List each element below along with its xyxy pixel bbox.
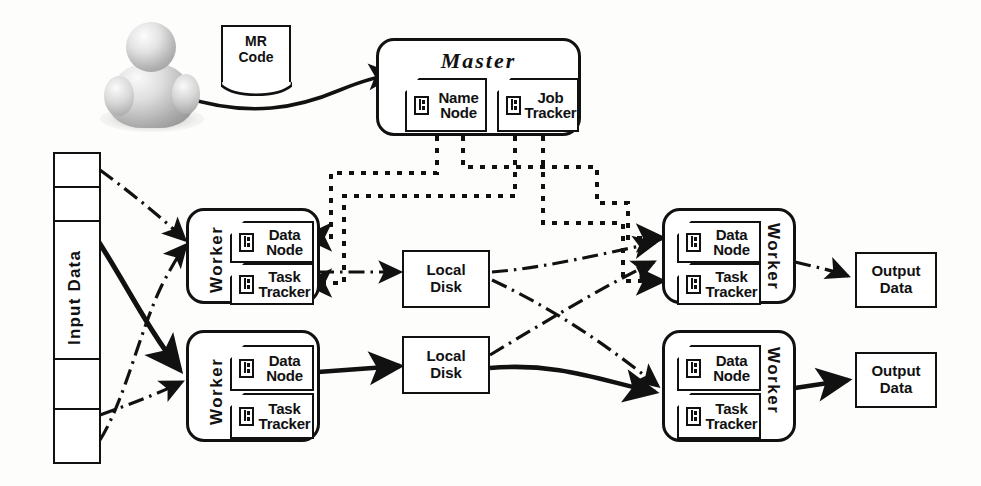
diagram-canvas: MR Code Master Name Node Job Tracke [0,0,981,486]
task-tracker-label: Task Tracker [257,269,312,300]
person-icon [96,18,208,130]
input-segment [55,360,99,410]
data-node-label: Data Node [257,353,312,384]
data-node-component[interactable]: Data Node [677,345,761,391]
edge-input-to-worker-tl [100,170,185,240]
job-tracker-label: Job Tracker [524,90,577,121]
input-data-label: Input Data [65,250,85,345]
task-tracker-label: Task Tracker [257,401,312,432]
worker-top-left-node[interactable]: Worker Data Node Task Tracker [186,208,320,304]
component-icon [506,96,521,115]
component-icon [239,407,254,426]
data-node-label: Data Node [704,353,759,384]
worker-top-right-label: Worker [763,223,783,290]
edge-input-to-worker-bl [100,382,182,415]
component-icon [414,96,429,115]
task-tracker-label: Task Tracker [704,269,759,300]
local-disk-top[interactable]: Local Disk [402,250,490,308]
worker-top-left-label: Worker [207,226,227,293]
mr-code-document: MR Code [221,25,291,85]
output-data-bottom[interactable]: Output Data [855,352,937,408]
local-disk-bottom-label: Local Disk [426,348,465,382]
mr-code-label: MR Code [239,27,274,65]
edge-localdisk-bottom-to-worker-br [490,367,655,392]
worker-bottom-left-label: Worker [207,358,227,425]
task-tracker-label: Task Tracker [704,401,759,432]
worker-bottom-left-node[interactable]: Worker Data Node Task Tracker [186,330,320,442]
input-segment [55,410,99,457]
job-tracker-component[interactable]: Job Tracker [497,78,579,132]
name-node-component[interactable]: Name Node [405,78,487,132]
component-icon [239,275,254,294]
edge-worker-tr-to-output-top [795,262,848,276]
data-node-component[interactable]: Data Node [230,221,314,263]
edge-localdisk-top-to-worker-br [492,280,658,386]
data-node-label: Data Node [257,227,312,258]
edge-jobtracker-to-worker-tr-tasktracker [543,136,663,281]
local-disk-top-label: Local Disk [426,262,465,296]
worker-bottom-right-node[interactable]: Worker Data Node Task Tracker [662,330,796,442]
worker-bottom-right-label: Worker [763,347,783,414]
edge-worker-br-to-output-bottom [795,380,848,388]
component-icon [239,359,254,378]
edge-localdisk-top-to-worker-tr [492,243,655,272]
edge-localdisk-bottom-to-worker-tr [490,262,654,355]
local-disk-bottom[interactable]: Local Disk [402,336,490,394]
task-tracker-component[interactable]: Task Tracker [230,263,314,305]
master-title: Master [379,48,578,74]
edge-namenode-to-worker-tl-datanode [305,136,437,237]
edge-worker-bl-to-localdisk-bottom [318,366,400,372]
name-node-label: Name Node [432,90,485,121]
component-icon [686,407,701,426]
task-tracker-component[interactable]: Task Tracker [677,393,761,439]
component-icon [686,359,701,378]
output-data-bottom-label: Output Data [871,363,920,397]
worker-top-right-node[interactable]: Worker Data Node Task Tracker [662,208,796,304]
master-node[interactable]: Master Name Node Job Tracker [376,38,581,136]
document-tear-edge [221,82,292,100]
data-node-component[interactable]: Data Node [230,345,314,391]
data-node-component[interactable]: Data Node [677,221,761,263]
output-data-top[interactable]: Output Data [855,252,937,308]
task-tracker-component[interactable]: Task Tracker [677,263,761,305]
data-node-label: Data Node [704,227,759,258]
component-icon [686,233,701,252]
edge-namenode-to-worker-tr-datanode [463,136,663,238]
input-segment [55,188,99,222]
component-icon [686,275,701,294]
component-icon [239,233,254,252]
output-data-top-label: Output Data [871,263,920,297]
task-tracker-component[interactable]: Task Tracker [230,393,314,439]
input-segment [55,154,99,188]
